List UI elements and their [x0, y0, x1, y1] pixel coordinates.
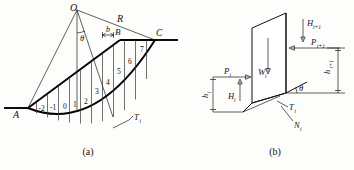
label-T-b-sub: i [295, 108, 297, 114]
label-h-left-sub: i [206, 91, 212, 93]
slice-number--1: -1 [50, 103, 56, 112]
label-h-left: h i [200, 91, 212, 98]
slice-number-0: 0 [63, 102, 67, 111]
shear-leader-b [277, 101, 288, 107]
slice-number-7: 7 [140, 45, 144, 54]
slice-base-left-edge [243, 103, 252, 112]
panel-a-group: O A B C R θ b T i -2 -1 0 1 2 3 4 5 6 [4, 2, 178, 158]
slice-number-2: 2 [84, 97, 88, 106]
label-point-B: B [115, 27, 121, 37]
label-point-O: O [70, 2, 77, 13]
slice-base-right-extension [286, 82, 307, 93]
label-P-left-symbol: P [223, 66, 229, 76]
label-P-left-sub: i [230, 72, 232, 78]
slice-number-6: 6 [128, 57, 132, 66]
label-N-b: N i [293, 120, 302, 132]
label-h-right-symbol: h [322, 70, 332, 74]
caption-b: (b) [269, 146, 281, 158]
slope-stability-figure: O A B C R θ b T i -2 -1 0 1 2 3 4 5 6 [0, 0, 354, 170]
slice-number-5: 5 [117, 67, 121, 76]
slice-element-top-face [252, 13, 286, 103]
label-point-A: A [12, 109, 20, 120]
label-H-right: H i+1 [306, 18, 321, 30]
label-shear-sub-a: i [140, 118, 142, 124]
label-P-right-symbol: P [310, 37, 316, 47]
label-N-b-sub: i [300, 126, 302, 132]
label-slice-width-b: b [106, 25, 110, 34]
label-theta-a: θ [80, 33, 84, 43]
slice-number-1: 1 [73, 100, 77, 109]
label-H-left-sub: i [234, 97, 236, 103]
caption-a: (a) [82, 146, 93, 158]
slice-number-4: 4 [106, 78, 110, 87]
label-shear-force-a: T i [134, 112, 142, 124]
label-h-left-symbol: h [200, 94, 210, 98]
shear-leader-a [113, 120, 129, 128]
label-theta-b: θ [299, 83, 303, 93]
theta-arc-b [296, 88, 298, 94]
label-radius-R: R [116, 13, 123, 24]
label-P-right: P i+1 [310, 37, 325, 49]
label-H-left: H i [227, 91, 236, 103]
figure-container: O A B C R θ b T i -2 -1 0 1 2 3 4 5 6 [0, 0, 354, 170]
label-T-b: T i [289, 102, 297, 114]
label-P-left: P i [223, 66, 232, 78]
shear-tick-a [129, 116, 133, 120]
label-point-C: C [156, 28, 163, 38]
slice-number--2: -2 [39, 104, 45, 113]
label-h-right: h i+1 [322, 60, 334, 74]
label-h-right-sub: i+1 [328, 60, 334, 68]
panel-b-group: H i+1 P i+1 h i+1 P i h i H i [200, 13, 345, 158]
label-H-right-sub: i+1 [313, 24, 321, 30]
label-P-right-sub: i+1 [317, 43, 325, 49]
slice-number-3: 3 [95, 87, 99, 96]
